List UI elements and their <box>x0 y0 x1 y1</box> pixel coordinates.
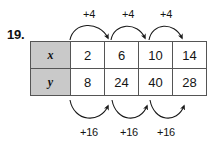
bottom-arrow-label-1: +16 <box>75 126 103 138</box>
input-output-table: x 2 6 10 14 y 8 24 40 28 <box>30 41 207 96</box>
top-arrow-1 <box>70 25 108 40</box>
cell-y-4: 28 <box>173 69 207 96</box>
cell-x-2: 6 <box>105 42 139 69</box>
bottom-arrow-2 <box>112 100 147 118</box>
problem-number: 19. <box>7 27 24 42</box>
row-header-y: y <box>31 69 71 96</box>
cell-x-3: 10 <box>139 42 173 69</box>
top-arrow-2 <box>111 26 145 40</box>
cell-y-1: 8 <box>71 69 105 96</box>
top-arrow-label-2: +4 <box>117 8 139 20</box>
cell-y-2: 24 <box>105 69 139 96</box>
top-arrow-3 <box>149 26 182 40</box>
bottom-arrow-label-2: +16 <box>115 126 143 138</box>
cell-x-4: 14 <box>173 42 207 69</box>
top-arrow-label-3: +4 <box>155 8 177 20</box>
worksheet-problem: 19. +4 +4 +4 +16 +16 +16 <box>0 0 216 147</box>
row-header-x: x <box>31 42 71 69</box>
bottom-arrow-label-3: +16 <box>152 126 180 138</box>
bottom-arrow-1 <box>70 100 108 118</box>
cell-y-3: 40 <box>139 69 173 96</box>
top-arrow-label-1: +4 <box>78 8 100 20</box>
bottom-arrow-3 <box>150 100 184 118</box>
table-row-y: y 8 24 40 28 <box>31 69 207 96</box>
cell-x-1: 2 <box>71 42 105 69</box>
table-row-x: x 2 6 10 14 <box>31 42 207 69</box>
